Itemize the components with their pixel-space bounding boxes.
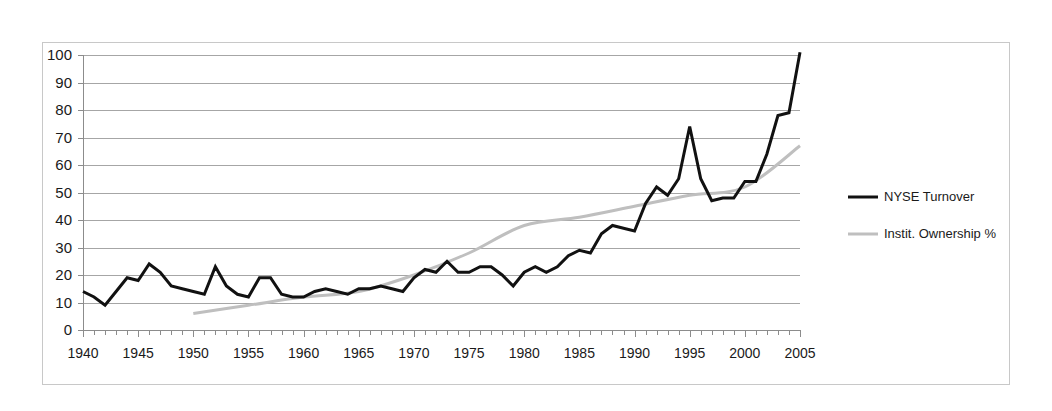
y-axis-label-50: 50 bbox=[55, 184, 72, 201]
x-axis-label-1940: 1940 bbox=[67, 345, 98, 361]
y-axis-label-60: 60 bbox=[55, 156, 72, 173]
y-axis-label-20: 20 bbox=[55, 266, 72, 283]
x-axis-label-1950: 1950 bbox=[178, 345, 209, 361]
x-axis-label-2000: 2000 bbox=[729, 345, 760, 361]
x-axis-label-1985: 1985 bbox=[564, 345, 595, 361]
chart-legend: NYSE TurnoverInstit. Ownership % bbox=[848, 189, 996, 241]
y-axis-labels-group: 0102030405060708090100 bbox=[47, 46, 72, 338]
x-axis-label-1995: 1995 bbox=[674, 345, 705, 361]
y-axis-label-40: 40 bbox=[55, 211, 72, 228]
x-axis-label-1975: 1975 bbox=[453, 345, 484, 361]
line-chart: 0102030405060708090100 19401945195019551… bbox=[0, 0, 1052, 411]
series-line-nyse-turnover bbox=[83, 52, 800, 305]
y-axis-label-90: 90 bbox=[55, 74, 72, 91]
y-axis-label-10: 10 bbox=[55, 294, 72, 311]
x-axis-labels-group: 1940194519501955196019651970197519801985… bbox=[67, 345, 815, 361]
x-axis-label-1945: 1945 bbox=[123, 345, 154, 361]
y-axis-label-70: 70 bbox=[55, 129, 72, 146]
y-tick-marks-group bbox=[78, 56, 83, 331]
y-axis-label-30: 30 bbox=[55, 239, 72, 256]
x-axis-label-1965: 1965 bbox=[343, 345, 374, 361]
y-axis-label-0: 0 bbox=[64, 321, 72, 338]
y-axis-label-80: 80 bbox=[55, 101, 72, 118]
x-axis-label-1970: 1970 bbox=[398, 345, 429, 361]
y-axis-label-100: 100 bbox=[47, 46, 72, 63]
data-series-group bbox=[83, 52, 800, 313]
legend-label-2: Instit. Ownership % bbox=[884, 226, 996, 241]
x-axis-label-1960: 1960 bbox=[288, 345, 319, 361]
x-axis-label-1980: 1980 bbox=[509, 345, 540, 361]
legend-label-1: NYSE Turnover bbox=[884, 189, 975, 204]
x-axis-label-1990: 1990 bbox=[619, 345, 650, 361]
series-line-institutional-ownership bbox=[193, 146, 800, 314]
x-axis-label-2005: 2005 bbox=[784, 345, 815, 361]
x-axis-label-1955: 1955 bbox=[233, 345, 264, 361]
